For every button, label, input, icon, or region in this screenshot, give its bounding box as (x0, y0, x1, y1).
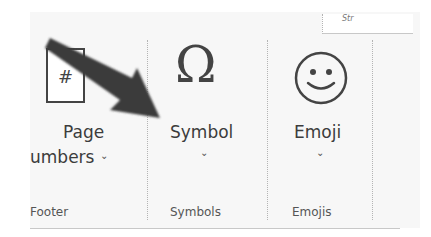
annotation-arrow-icon (0, 0, 431, 237)
